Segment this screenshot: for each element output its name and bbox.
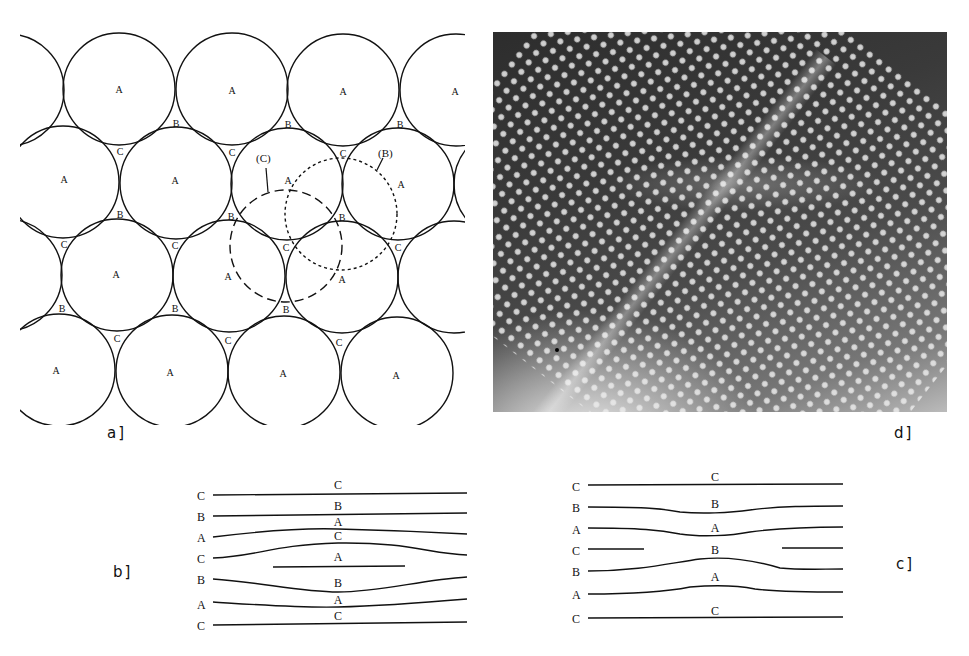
svg-text:B: B (397, 119, 404, 130)
svg-text:C: C (172, 240, 179, 251)
svg-text:A: A (711, 521, 720, 535)
panel-label-a: a] (107, 424, 126, 442)
svg-text:A: A (284, 175, 292, 186)
left-layer-labels: C B A C B A C (197, 489, 206, 633)
svg-text:A: A (224, 271, 232, 282)
svg-text:C: C (117, 146, 124, 157)
svg-text:A: A (572, 523, 581, 537)
svg-text:B: B (59, 303, 66, 314)
dust-speck (555, 348, 559, 352)
callout-c-leader (266, 168, 268, 192)
panel-label-c: c] (896, 555, 914, 573)
svg-text:B: B (711, 497, 719, 511)
svg-text:A: A (338, 274, 346, 285)
svg-text:B: B (283, 304, 290, 315)
svg-text:A: A (171, 175, 179, 186)
callout-b-leader (377, 158, 383, 170)
svg-text:C: C (197, 489, 205, 503)
svg-text:B: B (711, 543, 719, 557)
panel-d-lattice-micrograph (493, 32, 947, 412)
svg-text:C: C (572, 544, 580, 558)
lattice-dots (493, 32, 947, 412)
svg-text:A: A (197, 598, 206, 612)
svg-text:C: C (336, 337, 343, 348)
svg-text:B: B (334, 576, 342, 590)
svg-text:A: A (60, 174, 68, 185)
panel-label-b: b] (113, 563, 132, 581)
callout-b: (B) (378, 147, 393, 160)
svg-text:C: C (114, 333, 121, 344)
svg-text:C: C (395, 242, 402, 253)
svg-text:B: B (572, 501, 580, 515)
sphere-circles (0, 33, 480, 429)
center-layer-labels: C B A B A C (711, 470, 720, 618)
svg-text:A: A (166, 367, 174, 378)
svg-text:A: A (339, 86, 347, 97)
svg-text:B: B (117, 209, 124, 220)
svg-text:C: C (229, 147, 236, 158)
svg-text:C: C (711, 604, 719, 618)
svg-text:B: B (334, 499, 342, 513)
svg-text:B: B (339, 212, 346, 223)
svg-text:A: A (711, 570, 720, 584)
svg-text:C: C (340, 148, 347, 159)
callout-c: (C) (256, 152, 271, 165)
svg-text:A: A (451, 86, 459, 97)
svg-text:C: C (283, 242, 290, 253)
svg-text:B: B (197, 573, 205, 587)
svg-text:B: B (285, 119, 292, 130)
svg-text:B: B (197, 510, 205, 524)
panel-b-stacking-diagram: C B A C B A C C B A C A B A C (180, 470, 480, 640)
svg-text:A: A (392, 370, 400, 381)
svg-text:A: A (397, 179, 405, 190)
panel-label-d: d] (894, 424, 913, 442)
svg-text:C: C (197, 619, 205, 633)
svg-text:A: A (197, 531, 206, 545)
svg-text:B: B (228, 211, 235, 222)
svg-text:A: A (572, 588, 581, 602)
svg-text:C: C (572, 480, 580, 494)
svg-text:C: C (711, 470, 719, 484)
center-layer-labels: C B A C A B A C (334, 478, 343, 623)
svg-text:C: C (334, 478, 342, 492)
svg-text:C: C (572, 612, 580, 626)
svg-text:A: A (334, 550, 343, 564)
svg-text:C: C (61, 239, 68, 250)
svg-text:A: A (279, 368, 287, 379)
svg-text:A: A (334, 593, 343, 607)
svg-text:B: B (572, 565, 580, 579)
site-labels: A A A A A A A A A A A A A A A B B B B B … (52, 84, 459, 381)
svg-text:C: C (334, 609, 342, 623)
svg-text:C: C (197, 552, 205, 566)
svg-text:A: A (334, 515, 343, 529)
svg-text:C: C (225, 335, 232, 346)
left-layer-labels: C B A C B A C (572, 480, 581, 626)
svg-text:A: A (112, 269, 120, 280)
svg-text:C: C (334, 529, 342, 543)
svg-text:A: A (52, 365, 60, 376)
svg-text:A: A (228, 85, 236, 96)
panel-c-stacking-diagram: C B A C B A C C B A B A C (560, 470, 860, 640)
svg-text:B: B (173, 118, 180, 129)
svg-text:B: B (172, 303, 179, 314)
svg-text:A: A (115, 84, 123, 95)
panel-a-sphere-packing: (C) (B) A A A A A A A A A A A A A A A B … (0, 0, 480, 430)
